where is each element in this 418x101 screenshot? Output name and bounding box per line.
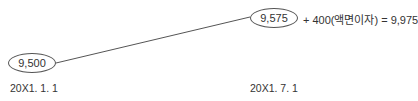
end-value-node: 9,575: [250, 8, 298, 28]
end-date-label: 20X1. 7. 1: [250, 82, 298, 94]
start-value-node: 9,500: [8, 53, 56, 73]
interest-annotation: + 400(액면이자) = 9,975: [303, 11, 418, 27]
start-date-label: 20X1. 1. 1: [10, 82, 58, 94]
start-value: 9,500: [18, 57, 46, 69]
end-value: 9,575: [260, 12, 288, 24]
